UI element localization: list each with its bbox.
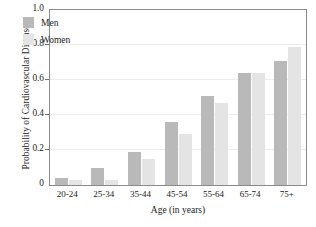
y-axis-tick-mark — [45, 79, 49, 80]
bar-men-25-34 — [91, 168, 104, 186]
x-axis-tick-label: 35-44 — [122, 189, 159, 199]
x-axis-title: Age (in years) — [49, 205, 307, 215]
legend-item-women[interactable]: Women — [23, 31, 70, 48]
legend-label-women: Women — [41, 35, 70, 45]
x-axis-tick-label: 75+ — [268, 189, 305, 199]
bar-women-75+ — [288, 47, 301, 185]
bar-women-45-54 — [179, 134, 192, 185]
gridline — [50, 44, 306, 45]
bar-women-35-44 — [142, 159, 155, 185]
legend-swatch-men-icon — [23, 17, 34, 28]
gridline — [50, 114, 306, 115]
legend: Men Women — [23, 14, 70, 48]
x-axis-tick-label: 65-74 — [232, 189, 269, 199]
y-axis-tick-label: 0.6 — [22, 74, 44, 83]
bar-men-20-24 — [55, 178, 68, 185]
bar-men-55-64 — [201, 96, 214, 185]
bar-chart: Probability of Cardiovascular Disease 00… — [0, 0, 316, 227]
legend-label-men: Men — [41, 18, 58, 28]
y-axis-tick-label: 0 — [22, 179, 44, 188]
y-axis-tick-mark — [45, 44, 49, 45]
x-axis-tick-label: 45-54 — [159, 189, 196, 199]
bar-women-25-34 — [105, 180, 118, 185]
bar-men-35-44 — [128, 152, 141, 185]
legend-swatch-women-icon — [23, 34, 34, 45]
bar-men-65-74 — [238, 73, 251, 185]
bar-men-75+ — [274, 61, 287, 185]
y-axis-tick-mark — [45, 114, 49, 115]
bar-women-20-24 — [69, 180, 82, 185]
y-axis-tick-mark — [45, 149, 49, 150]
gridline — [50, 79, 306, 80]
y-axis-tick-label: 0.2 — [22, 144, 44, 153]
x-axis-tick-label: 25-34 — [86, 189, 123, 199]
y-axis-tick-label: 1.0 — [22, 4, 44, 13]
x-axis-tick-label: 55-64 — [195, 189, 232, 199]
plot-inner — [50, 10, 306, 185]
plot-area — [49, 9, 307, 186]
bar-women-55-64 — [215, 103, 228, 185]
x-axis-tick-label: 20-24 — [49, 189, 86, 199]
x-axis-tick-labels: 20-2425-3435-4445-5455-6465-7475+ — [49, 189, 307, 201]
legend-item-men[interactable]: Men — [23, 14, 70, 31]
bar-men-45-54 — [165, 122, 178, 185]
bar-women-65-74 — [252, 73, 265, 185]
y-axis-tick-label: 0.4 — [22, 109, 44, 118]
